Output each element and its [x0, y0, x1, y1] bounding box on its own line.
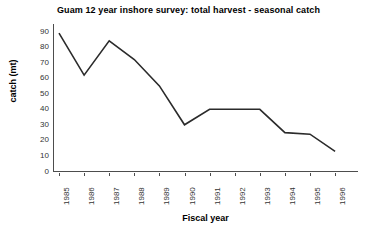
- line-chart: Guam 12 year inshore survey: total harve…: [0, 0, 377, 233]
- x-axis-title: Fiscal year: [53, 213, 358, 223]
- data-series-line: [0, 0, 377, 233]
